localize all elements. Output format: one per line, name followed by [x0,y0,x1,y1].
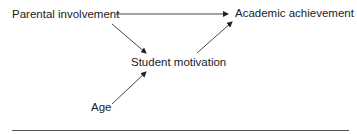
node-student-motivation: Student motivation [131,56,226,69]
node-parental-involvement: Parental involvement [12,8,119,21]
edge-parental-to-student [112,24,146,53]
edge-student-to-academic [197,22,232,53]
edge-age-to-student [112,72,146,104]
horizontal-rule [12,130,349,131]
node-age: Age [91,101,111,114]
node-academic-achievement: Academic achievement [235,7,354,20]
